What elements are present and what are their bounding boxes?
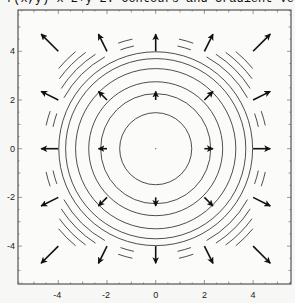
origin-point [155,148,156,149]
x-tick-label: 4 [251,290,256,300]
y-tick-label: -2 [7,192,15,202]
y-tick-label: 0 [10,144,15,154]
contour-gradient-plot: -4-2024420-2-4 [0,0,295,303]
y-tick-label: -4 [7,241,15,251]
x-tick-label: 2 [202,290,207,300]
x-tick-label: 0 [153,290,158,300]
x-tick-label: -2 [102,290,110,300]
y-tick-label: 4 [10,46,15,56]
x-tick-label: -4 [53,290,61,300]
y-tick-label: 2 [10,95,15,105]
